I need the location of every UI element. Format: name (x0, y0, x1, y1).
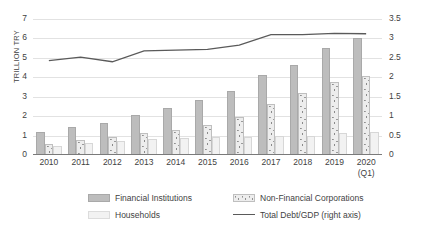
x-axis-tick-label: 2012 (96, 157, 128, 179)
bar-group (350, 19, 382, 155)
bar-nfc (108, 137, 117, 155)
x-axis-tick-label: 2010 (33, 157, 65, 179)
bar-hh (212, 137, 221, 155)
bar-hh (275, 136, 284, 155)
bar-fi (131, 115, 140, 155)
bar-group (192, 19, 224, 155)
x-axis-tick-label: 2011 (65, 157, 97, 179)
legend-item-non-financial-corporations: Non-Financial Corporations (233, 193, 363, 203)
y-axis-left-tick-label: 1 (5, 131, 27, 140)
bar-hh (307, 136, 316, 155)
bar-group (128, 19, 160, 155)
x-axis-line (33, 154, 382, 155)
legend-label-non-financial-corporations: Non-Financial Corporations (260, 193, 363, 203)
bar-nfc (267, 104, 276, 155)
y-axis-left-tick-label: 4 (5, 72, 27, 81)
bar-group (255, 19, 287, 155)
x-axis-tick-label: 2017 (255, 157, 287, 179)
y-axis-right-tick-label: 1.5 (389, 92, 415, 101)
legend-line-icon-total-debt-gdp (233, 211, 255, 219)
y-axis-left-tick-label: 5 (5, 53, 27, 62)
legend-label-total-debt-gdp: Total Debt/GDP (right axis) (260, 210, 361, 220)
bar-fi (290, 65, 299, 155)
bar-fi (227, 91, 236, 155)
y-axis-left-tick-label: 0 (5, 150, 27, 159)
bar-fi (163, 108, 172, 155)
bar-hh (339, 133, 348, 155)
bar-fi (36, 132, 45, 155)
bar-group (33, 19, 65, 155)
x-axis-labels: 2010201120122013201420152016201720182019… (33, 157, 382, 179)
legend-swatch-icon-non-financial-corporations (233, 194, 255, 202)
x-axis-tick-sublabel: (Q1) (350, 168, 382, 179)
bar-fi (195, 100, 204, 155)
bar-group (319, 19, 351, 155)
bar-nfc (140, 133, 149, 155)
bar-group (223, 19, 255, 155)
bar-nfc (235, 117, 244, 155)
bar-fi (68, 127, 77, 155)
bar-nfc (362, 76, 371, 155)
x-axis-tick-label: 2019 (319, 157, 351, 179)
x-axis-tick-label: 2018 (287, 157, 319, 179)
y-axis-left-tick-label: 6 (5, 33, 27, 42)
y-axis-right-tick-label: 0 (389, 150, 415, 159)
legend-label-households: Households (115, 210, 160, 220)
x-axis-tick-label: 2014 (160, 157, 192, 179)
bar-fi (353, 38, 362, 155)
x-axis-tick-label: 2016 (223, 157, 255, 179)
bar-nfc (298, 93, 307, 155)
y-axis-right-tick-label: 2 (389, 72, 415, 81)
y-axis-left-tick-label: 7 (5, 14, 27, 23)
bar-groups (33, 19, 382, 155)
bar-nfc (172, 130, 181, 155)
bar-group (160, 19, 192, 155)
plot-area (33, 19, 382, 155)
legend-row-2: Households Total Debt/GDP (right axis) (0, 206, 422, 223)
y-axis-right-tick-label: 3.5 (389, 14, 415, 23)
legend-swatch-icon-households (88, 211, 110, 219)
bar-group (287, 19, 319, 155)
bar-nfc (330, 82, 339, 155)
bar-hh (180, 138, 189, 155)
legend-item-households: Households (88, 210, 233, 220)
bar-fi (258, 75, 267, 155)
bar-group (65, 19, 97, 155)
x-axis-tick-label: 2015 (192, 157, 224, 179)
bar-group (96, 19, 128, 155)
y-axis-left-tick-label: 2 (5, 111, 27, 120)
y-axis-left-tick-label: 3 (5, 92, 27, 101)
bar-fi (100, 123, 109, 155)
legend-item-financial-institutions: Financial Institutions (88, 193, 233, 203)
bar-nfc (203, 125, 212, 155)
x-axis-tick-label: 2013 (128, 157, 160, 179)
y-axis-right-tick-label: 0.5 (389, 131, 415, 140)
bar-hh (370, 132, 379, 155)
chart-legend: Financial Institutions Non-Financial Cor… (0, 189, 422, 223)
legend-label-financial-institutions: Financial Institutions (115, 193, 192, 203)
legend-row-1: Financial Institutions Non-Financial Cor… (0, 189, 422, 206)
chart-container: TRILLION TRY 01234567 00.511.522.533.5 2… (0, 0, 422, 234)
bar-hh (148, 139, 157, 155)
y-axis-right-tick-label: 1 (389, 111, 415, 120)
y-axis-right-tick-label: 2.5 (389, 53, 415, 62)
bar-hh (244, 137, 253, 155)
y-axis-right-tick-label: 3 (389, 33, 415, 42)
legend-item-total-debt-gdp: Total Debt/GDP (right axis) (233, 210, 361, 220)
bar-fi (322, 48, 331, 155)
legend-swatch-icon-financial-institutions (88, 194, 110, 202)
x-axis-tick-label: 2020(Q1) (350, 157, 382, 179)
